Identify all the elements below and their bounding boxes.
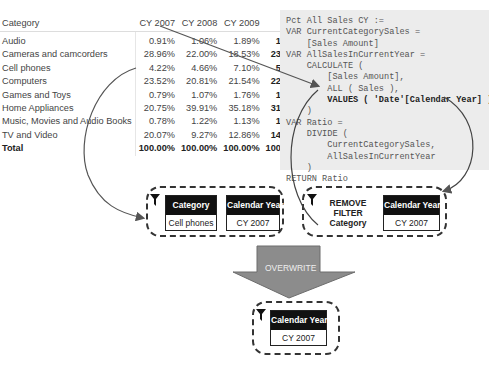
cell-cy2009: 12.86% — [220, 129, 262, 142]
header-cy2009[interactable]: CY 2009 — [220, 16, 262, 32]
header-cy2008[interactable]: CY 2008 — [178, 16, 220, 32]
table-row: Cell phones4.22%4.66%7.10%5.25% — [0, 62, 305, 75]
cell-cy2008: 1.07% — [178, 89, 220, 102]
table-row: Audio0.91%1.06%1.89%1.26% — [0, 32, 305, 49]
header-category[interactable]: Category — [0, 16, 135, 32]
card-value: CY 2007 — [384, 215, 439, 232]
code-line: DIVIDE ( — [286, 129, 489, 140]
code-line: Pct All Sales CY := — [286, 16, 489, 27]
cell-cy2009: 35.18% — [220, 102, 262, 115]
code-line: VAR AllSalesInCurrentYear = — [286, 50, 489, 61]
cell-cy2009: 7.10% — [220, 62, 262, 75]
cell-cy2009: 1.76% — [220, 89, 262, 102]
table-total-row: Total100.00%100.00%100.00%100.00% — [0, 142, 305, 155]
cell-cy2008: 1.06% — [178, 32, 220, 49]
filter-card-calendar-year: Calendar Year CY 2007 — [226, 195, 280, 231]
cell-cy2008: 4.66% — [178, 62, 220, 75]
code-line: VALUES ( 'Date'[Calendar Year] ) — [286, 95, 489, 106]
cell-cy2008: 1.22% — [178, 115, 220, 128]
cell-cy2007: 28.96% — [135, 48, 178, 61]
filter-funnel-icon — [150, 194, 160, 206]
cell-cy2009: 18.53% — [220, 48, 262, 61]
table-row: Music, Movies and Audio Books0.78%1.22%1… — [0, 115, 305, 128]
cell-cy2008: 100.00% — [178, 142, 220, 155]
filter-card-category: Category Cell phones — [165, 195, 217, 231]
card-header: Calendar Year — [384, 196, 439, 215]
cell-cy2007: 20.07% — [135, 129, 178, 142]
code-line: AllSalesInCurrentYear — [286, 152, 489, 163]
card-value: CY 2007 — [271, 330, 326, 347]
header-cy2007[interactable]: CY 2007 — [135, 16, 178, 32]
cell-cy2009: 21.54% — [220, 75, 262, 88]
matrix-table: Category CY 2007 CY 2008 CY 2009 Total A… — [0, 16, 275, 156]
code-line: ) — [286, 163, 489, 174]
table-row: Computers23.52%20.81%21.54%22.04% — [0, 75, 305, 88]
row-category: Computers — [0, 75, 135, 88]
cell-cy2007: 0.78% — [135, 115, 178, 128]
code-line: CALCULATE ( — [286, 61, 489, 72]
filter-funnel-icon — [307, 194, 317, 206]
remove-text-line: Category — [322, 218, 374, 228]
cell-cy2008: 9.27% — [178, 129, 220, 142]
row-category: Total — [0, 142, 135, 155]
code-line: [Sales Amount], — [286, 72, 489, 83]
filter-card-calendar-year: Calendar Year CY 2007 — [383, 195, 440, 231]
cell-cy2009: 100.00% — [220, 142, 262, 155]
table-row: Cameras and camcorders28.96%22.00%18.53%… — [0, 48, 305, 61]
row-category: Cell phones — [0, 62, 135, 75]
card-header: Calendar Year — [227, 196, 279, 215]
table-row: Home Appliances20.75%39.91%35.18%31.38% — [0, 102, 305, 115]
cell-cy2007: 20.75% — [135, 102, 178, 115]
cell-cy2008: 22.00% — [178, 48, 220, 61]
code-line: RETURN Ratio — [286, 174, 489, 185]
table-header-row: Category CY 2007 CY 2008 CY 2009 Total — [0, 16, 305, 32]
cell-cy2008: 20.81% — [178, 75, 220, 88]
card-header: Category — [166, 196, 216, 215]
code-line: CurrentCategorySales, — [286, 140, 489, 151]
code-line: [Sales Amount] — [286, 39, 489, 50]
dax-code-block: Pct All Sales CY :=VAR CurrentCategorySa… — [280, 10, 489, 170]
cell-cy2009: 1.13% — [220, 115, 262, 128]
cell-cy2007: 100.00% — [135, 142, 178, 155]
row-category: TV and Video — [0, 129, 135, 142]
table-row: TV and Video20.07%9.27%12.86%14.36% — [0, 129, 305, 142]
filter-card-calendar-year: Calendar Year CY 2007 — [270, 310, 327, 346]
cell-cy2007: 4.22% — [135, 62, 178, 75]
remove-text-line: REMOVE — [322, 198, 374, 208]
remove-filter-label: REMOVE FILTER Category — [322, 198, 374, 228]
code-line: VAR Ratio = — [286, 118, 489, 129]
code-line: ALL ( Sales ), — [286, 84, 489, 95]
row-category: Audio — [0, 32, 135, 49]
row-category: Home Appliances — [0, 102, 135, 115]
cell-cy2007: 0.91% — [135, 32, 178, 49]
filter-funnel-icon — [256, 309, 266, 321]
code-line: ) — [286, 106, 489, 117]
card-value: Cell phones — [166, 215, 216, 232]
cell-cy2009: 1.89% — [220, 32, 262, 49]
row-category: Music, Movies and Audio Books — [0, 115, 135, 128]
row-category: Games and Toys — [0, 89, 135, 102]
cell-cy2007: 23.52% — [135, 75, 178, 88]
cell-cy2007: 0.79% — [135, 89, 178, 102]
remove-text-line: FILTER — [322, 208, 374, 218]
row-category: Cameras and camcorders — [0, 48, 135, 61]
card-header: Calendar Year — [271, 311, 326, 330]
overwrite-label: OVERWRITE — [265, 263, 313, 273]
card-value: CY 2007 — [227, 215, 279, 232]
code-line: VAR CurrentCategorySales = — [286, 27, 489, 38]
table-row: Games and Toys0.79%1.07%1.76%1.18% — [0, 89, 305, 102]
cell-cy2008: 39.91% — [178, 102, 220, 115]
